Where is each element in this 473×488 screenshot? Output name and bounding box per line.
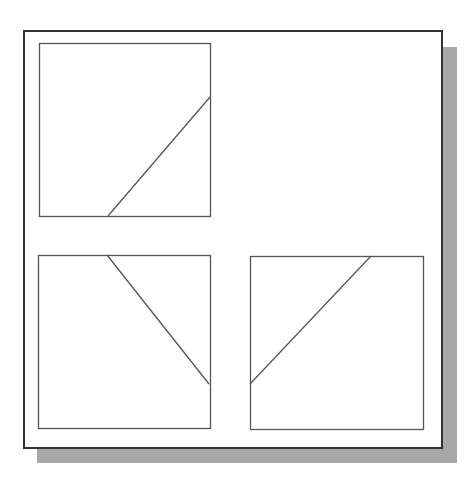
panel-bottom-right	[251, 257, 424, 430]
panels-canvas	[0, 0, 473, 488]
panel-top-left	[40, 44, 211, 217]
panel-bottom-left	[39, 256, 211, 429]
